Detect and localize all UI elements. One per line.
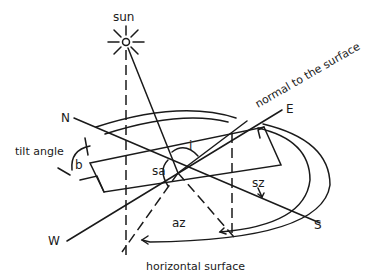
sun-label: sun: [113, 10, 134, 24]
incidence-angle-arc: [172, 148, 198, 156]
incidence-symbol-label: i: [189, 139, 192, 153]
south-label: S: [314, 218, 322, 232]
north-label: N: [61, 111, 70, 125]
surface-edge-fold: [80, 176, 104, 192]
diagram-canvas: sun N E S W tilt angle b i sa sz az hori…: [0, 0, 373, 280]
tilt-angle-label: tilt angle: [15, 145, 64, 158]
sun-icon: [108, 26, 144, 54]
horizontal-surface-label: horizontal surface: [146, 260, 245, 273]
horizon-arc-inner-top: [105, 118, 228, 134]
east-label: E: [286, 102, 294, 116]
solar-altitude-symbol-label: sa: [152, 164, 166, 178]
normal-label: normal to the surface: [253, 40, 363, 111]
tilt-symbol-label: b: [75, 158, 83, 172]
surface-azimuth-symbol-label: sz: [252, 176, 265, 190]
sz-arc-inner: [220, 128, 310, 232]
west-label: W: [48, 234, 60, 248]
tilt-tick-bottom: [58, 168, 70, 175]
az-arc-outer: [142, 124, 330, 242]
solar-azimuth-symbol-label: az: [172, 216, 186, 230]
north-south-axis: [74, 118, 320, 223]
solar-geometry-diagram: sun N E S W tilt angle b i sa sz az hori…: [0, 0, 373, 280]
